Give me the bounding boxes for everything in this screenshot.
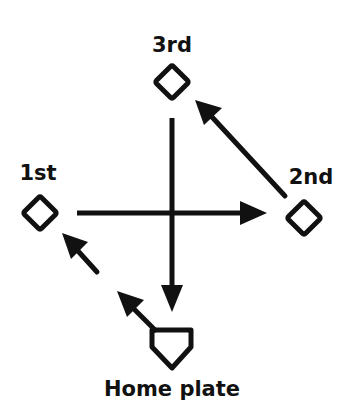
arrow-toward-first-icon — [62, 233, 97, 272]
label-home-plate: Home plate — [104, 377, 240, 401]
label-third-base: 3rd — [152, 33, 192, 57]
label-second-base: 2nd — [289, 165, 334, 189]
arrow-home-toward-first-icon — [117, 291, 155, 330]
baseball-diagram: 3rd 1st 2nd Home plate — [0, 0, 346, 419]
arrow-second-to-third-icon — [195, 100, 285, 196]
second-base-icon — [287, 201, 321, 235]
home-plate-icon — [152, 330, 191, 368]
first-base-icon — [23, 196, 57, 230]
label-first-base: 1st — [19, 161, 56, 185]
third-base-icon — [155, 65, 189, 99]
